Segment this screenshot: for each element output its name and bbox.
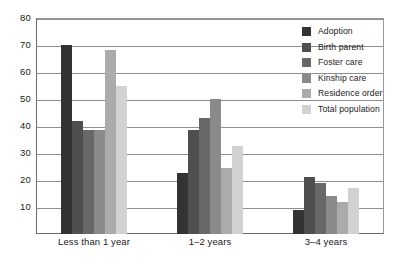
bar <box>337 202 348 234</box>
y-tick-70: 70 <box>0 39 36 51</box>
legend-item[interactable]: Kinship care <box>302 71 394 87</box>
legend-swatch-icon <box>302 27 311 36</box>
x-axis-label: 3–4 years <box>268 236 384 247</box>
legend: AdoptionBirth parentFoster careKinship c… <box>302 24 394 117</box>
y-tick-80: 80 <box>0 12 36 24</box>
y-tick-20: 20 <box>0 174 36 186</box>
bar <box>188 130 199 234</box>
legend-swatch-icon <box>302 89 311 98</box>
legend-swatch-icon <box>302 105 311 114</box>
bar <box>210 99 221 234</box>
y-tick-label: 70 <box>20 40 36 50</box>
y-tick-label: 10 <box>20 202 36 212</box>
y-tick-60: 60 <box>0 66 36 78</box>
bar <box>199 118 210 234</box>
legend-label: Kinship care <box>318 74 367 83</box>
legend-swatch-icon <box>302 74 311 83</box>
y-tick-label: 80 <box>20 13 36 23</box>
legend-label: Total population <box>318 105 380 114</box>
legend-label: Foster care <box>318 58 363 67</box>
bar <box>72 121 83 234</box>
legend-item[interactable]: Total population <box>302 102 394 118</box>
bar-group-1 <box>36 18 152 234</box>
y-tick-10: 10 <box>0 201 36 213</box>
bar-group-2 <box>152 18 268 234</box>
bar <box>177 173 188 234</box>
legend-item[interactable]: Foster care <box>302 55 394 71</box>
bar <box>293 210 304 234</box>
bar <box>304 177 315 234</box>
y-tick-30: 30 <box>0 147 36 159</box>
bar <box>221 168 232 234</box>
bar <box>61 45 72 234</box>
bar <box>232 146 243 234</box>
legend-label: Adoption <box>318 27 353 36</box>
x-axis-label: Less than 1 year <box>36 236 152 247</box>
y-tick-label: 30 <box>20 148 36 158</box>
x-axis-labels: Less than 1 year1–2 years3–4 years <box>36 236 384 247</box>
bar <box>315 183 326 234</box>
y-axis: 8070605040302010 <box>0 18 36 234</box>
bar <box>348 188 359 234</box>
bar <box>83 130 94 234</box>
y-tick-label: 40 <box>20 121 36 131</box>
y-tick-label: 20 <box>20 175 36 185</box>
y-tick-label: 60 <box>20 67 36 77</box>
x-axis-label: 1–2 years <box>152 236 268 247</box>
legend-item[interactable]: Residence order <box>302 86 394 102</box>
bar <box>326 196 337 234</box>
legend-label: Residence order <box>318 89 383 98</box>
legend-swatch-icon <box>302 58 311 67</box>
y-tick-50: 50 <box>0 93 36 105</box>
bar <box>94 130 105 234</box>
legend-swatch-icon <box>302 43 311 52</box>
y-tick-label: 50 <box>20 94 36 104</box>
bar <box>105 50 116 234</box>
legend-label: Birth parent <box>318 43 364 52</box>
bar <box>116 86 127 235</box>
bar-chart: 8070605040302010 Less than 1 year1–2 yea… <box>0 0 396 265</box>
legend-item[interactable]: Birth parent <box>302 40 394 56</box>
y-tick-40: 40 <box>0 120 36 132</box>
legend-item[interactable]: Adoption <box>302 24 394 40</box>
